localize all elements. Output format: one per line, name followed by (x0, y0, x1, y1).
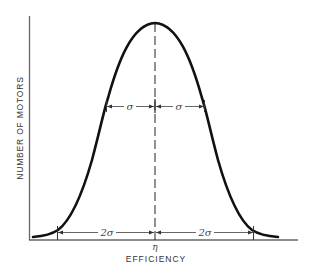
eta-label: η (152, 242, 158, 252)
y-axis-label: NUMBER OF MOTORS (15, 76, 25, 179)
sigma-right-label: σ (176, 101, 184, 112)
arrowhead-icon (107, 105, 112, 109)
bell-curve-diagram: σ σ 2σ 2σ η EFFICIENCY NUMBER OF MOTORS (0, 0, 319, 278)
arrowhead-icon (149, 231, 154, 235)
x-axis-label: EFFICIENCY (126, 254, 187, 264)
arrowhead-icon (156, 231, 161, 235)
two-sigma-left-label: 2σ (99, 227, 114, 238)
arrowhead-icon (58, 231, 63, 235)
sigma-left-label: σ (127, 101, 135, 112)
arrowhead-icon (156, 105, 161, 109)
arrowhead-icon (149, 105, 154, 109)
two-sigma-right-label: 2σ (197, 227, 212, 238)
